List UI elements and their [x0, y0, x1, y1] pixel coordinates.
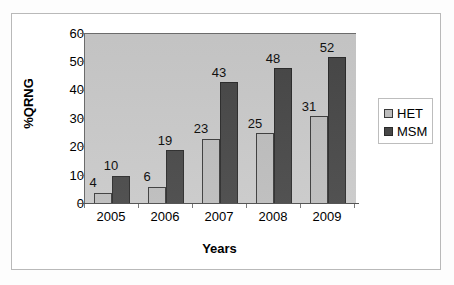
bar-msm-2005 — [112, 176, 130, 204]
x-axis-line — [78, 203, 359, 204]
chart-legend: HET MSM — [378, 98, 433, 144]
data-label-msm-2007: 43 — [207, 66, 231, 79]
legend-swatch-msm-icon — [384, 127, 393, 136]
x-tick-label-2006: 2006 — [138, 209, 192, 224]
bar-msm-2008 — [274, 68, 292, 204]
data-label-het-2006: 6 — [135, 170, 159, 183]
data-label-het-2005: 4 — [81, 176, 105, 189]
x-axis-title: Years — [84, 241, 355, 256]
plot-area — [84, 33, 356, 204]
x-tick-mark-3 — [246, 204, 247, 208]
chart-figure: %QRNG 60 50 40 30 20 10 0 4 1 — [0, 0, 454, 285]
legend-item-het[interactable]: HET — [384, 104, 432, 122]
x-tick-mark-5 — [354, 204, 355, 208]
bar-msm-2006 — [166, 150, 184, 204]
data-label-msm-2005: 10 — [99, 159, 123, 172]
x-tick-mark-1 — [138, 204, 139, 208]
x-tick-label-2005: 2005 — [84, 209, 138, 224]
legend-label-het: HET — [397, 107, 423, 120]
data-label-het-2008: 25 — [243, 117, 267, 130]
y-axis-title: %QRNG — [21, 64, 36, 144]
data-label-msm-2009: 52 — [315, 41, 339, 54]
data-label-msm-2008: 48 — [261, 52, 285, 65]
bar-het-2009 — [310, 116, 328, 204]
bar-het-2007 — [202, 139, 220, 204]
legend-item-msm[interactable]: MSM — [384, 122, 432, 140]
bar-het-2006 — [148, 187, 166, 204]
data-label-msm-2006: 19 — [153, 134, 177, 147]
x-tick-label-2007: 2007 — [192, 209, 246, 224]
x-tick-mark-0 — [84, 204, 85, 208]
bar-msm-2009 — [328, 57, 346, 204]
x-tick-mark-2 — [192, 204, 193, 208]
x-tick-mark-4 — [300, 204, 301, 208]
x-tick-label-2009: 2009 — [300, 209, 354, 224]
data-label-het-2009: 31 — [297, 100, 321, 113]
data-label-het-2007: 23 — [189, 122, 213, 135]
bar-msm-2007 — [220, 82, 238, 204]
bar-het-2008 — [256, 133, 274, 204]
x-tick-label-2008: 2008 — [246, 209, 300, 224]
legend-label-msm: MSM — [397, 125, 427, 138]
legend-swatch-het-icon — [384, 109, 393, 118]
y-axis: 60 50 40 30 20 10 0 — [48, 0, 84, 285]
